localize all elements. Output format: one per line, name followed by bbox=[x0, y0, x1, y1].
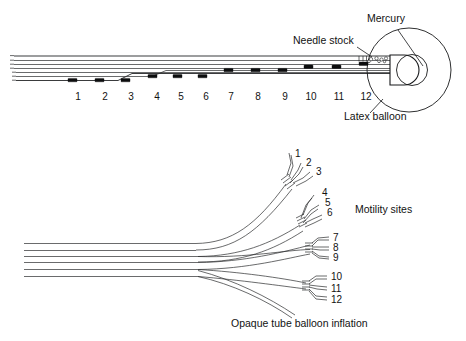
branch-number-1: 1 bbox=[295, 148, 301, 159]
figure-canvas: Mercury Needle stock Latex balloon 1 2 3… bbox=[0, 0, 466, 341]
label-latex-balloon: Latex balloon bbox=[344, 110, 407, 122]
branch-number-2: 2 bbox=[306, 157, 312, 168]
label-opaque-tube-balloon-inflation: Opaque tube balloon inflation bbox=[231, 317, 368, 329]
catheter-distal-tip bbox=[390, 55, 419, 85]
branch-number-12: 12 bbox=[331, 294, 343, 305]
sensor-number-7: 7 bbox=[228, 91, 234, 102]
tube-fanout-branches bbox=[196, 184, 310, 318]
lower-panel-group: 1 2 3 4 5 6 7 8 9 10 11 12 Motility site… bbox=[24, 148, 412, 329]
branch-number-6: 6 bbox=[327, 207, 333, 218]
branch-number-11: 11 bbox=[331, 283, 342, 294]
manometry-catheter-figure: Mercury Needle stock Latex balloon 1 2 3… bbox=[0, 0, 466, 341]
label-mercury: Mercury bbox=[367, 12, 406, 24]
branch-number-3: 3 bbox=[316, 166, 322, 177]
sensor-number-8: 8 bbox=[255, 91, 261, 102]
label-motility-sites: Motility sites bbox=[355, 203, 412, 215]
tube-bundle-straight bbox=[24, 244, 198, 277]
branch-collar-hatching bbox=[281, 174, 313, 290]
sensor-number-10: 10 bbox=[305, 91, 317, 102]
branch-number-10: 10 bbox=[331, 271, 343, 282]
sensor-number-11: 11 bbox=[334, 91, 345, 102]
sensor-number-12: 12 bbox=[360, 91, 372, 102]
upper-panel-group: Mercury Needle stock Latex balloon 1 2 3… bbox=[10, 12, 451, 122]
sensor-number-6: 6 bbox=[203, 91, 209, 102]
sensor-number-9: 9 bbox=[282, 91, 288, 102]
label-needle-stock: Needle stock bbox=[293, 34, 354, 46]
sensor-number-3: 3 bbox=[128, 91, 134, 102]
needle-stock-leader-line bbox=[357, 47, 372, 57]
branch-number-9: 9 bbox=[333, 252, 339, 263]
sensor-number-5: 5 bbox=[178, 91, 184, 102]
sensor-number-2: 2 bbox=[102, 91, 108, 102]
mercury-droplets bbox=[359, 56, 388, 63]
branch-number-labels: 1 2 3 4 5 6 7 8 9 10 11 12 bbox=[295, 148, 343, 305]
sensor-number-4: 4 bbox=[154, 91, 160, 102]
sensor-number-labels: 1 2 3 4 5 6 7 8 9 10 11 12 bbox=[75, 91, 372, 102]
sensor-number-1: 1 bbox=[75, 91, 81, 102]
pressure-sensor-markers bbox=[68, 62, 368, 82]
branch-fork-tips bbox=[287, 153, 329, 300]
